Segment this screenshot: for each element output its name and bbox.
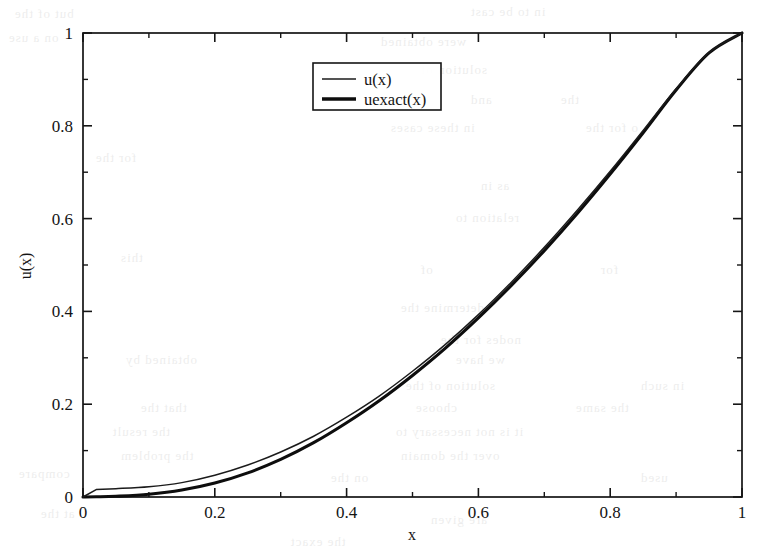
x-tick-label: 0.4 [336,503,358,522]
y-tick-label: 0 [65,488,74,507]
x-tick-label: 0.6 [468,503,489,522]
x-tick-label: 0 [79,503,88,522]
y-tick-label: 0.8 [52,117,73,136]
x-axis-title: x [408,526,416,543]
legend-label-uexact: uexact(x) [364,90,426,109]
legend[interactable]: u(x) uexact(x) [313,63,441,110]
y-tick-label: 1 [65,24,74,43]
plot-canvas: 00.20.40.60.81 00.20.40.60.81 x u(x) u(x… [0,0,770,559]
legend-label-u: u(x) [364,70,392,89]
figure-plot-u-vs-uexact: 00.20.40.60.81 00.20.40.60.81 x u(x) u(x… [0,0,770,559]
y-axis-title: u(x) [17,253,35,280]
x-tick-labels: 00.20.40.60.81 [79,503,747,522]
y-tick-labels: 00.20.40.60.81 [52,24,74,507]
x-tick-label: 0.8 [600,503,621,522]
y-tick-label: 0.2 [52,395,73,414]
x-tick-label: 0.2 [204,503,225,522]
x-tick-label: 1 [738,503,747,522]
y-tick-label: 0.6 [52,210,73,229]
y-tick-label: 0.4 [52,302,74,321]
